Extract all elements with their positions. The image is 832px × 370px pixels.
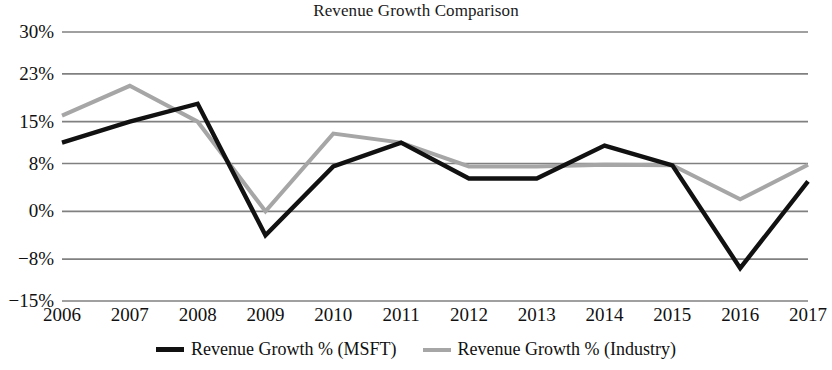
x-axis-tick-label: 2013 xyxy=(504,305,570,324)
legend-swatch-icon xyxy=(156,347,184,352)
y-axis-tick-label: 23% xyxy=(0,64,54,83)
revenue-growth-chart: Revenue Growth Comparison 30%23%15%8%0%−… xyxy=(0,0,832,370)
x-axis-tick-label: 2006 xyxy=(29,305,95,324)
series-line xyxy=(62,104,808,268)
y-axis-tick-label: 0% xyxy=(0,201,54,220)
x-axis-tick-label: 2017 xyxy=(775,305,832,324)
series-lines xyxy=(62,86,808,268)
x-axis-tick-label: 2008 xyxy=(165,305,231,324)
legend-label: Revenue Growth % (MSFT) xyxy=(191,339,396,360)
y-axis-tick-label: 30% xyxy=(0,22,54,41)
x-axis-tick-label: 2012 xyxy=(436,305,502,324)
legend-swatch-icon xyxy=(423,348,451,352)
x-axis-tick-label: 2016 xyxy=(707,305,773,324)
y-axis-tick-label: 8% xyxy=(0,154,54,173)
x-axis-tick-label: 2007 xyxy=(97,305,163,324)
chart-legend: Revenue Growth % (MSFT)Revenue Growth % … xyxy=(0,339,832,360)
x-axis-tick-label: 2015 xyxy=(639,305,705,324)
x-axis-tick-label: 2014 xyxy=(572,305,638,324)
series-line xyxy=(62,86,808,212)
legend-label: Revenue Growth % (Industry) xyxy=(458,339,676,360)
x-axis-tick-label: 2010 xyxy=(300,305,366,324)
x-axis-tick-label: 2009 xyxy=(232,305,298,324)
y-axis-tick-label: 15% xyxy=(0,112,54,131)
gridlines xyxy=(62,32,808,301)
legend-entry[interactable]: Revenue Growth % (Industry) xyxy=(423,339,676,360)
legend-entry[interactable]: Revenue Growth % (MSFT) xyxy=(156,339,396,360)
x-axis-tick-label: 2011 xyxy=(368,305,434,324)
y-axis-tick-label: −8% xyxy=(0,249,54,268)
